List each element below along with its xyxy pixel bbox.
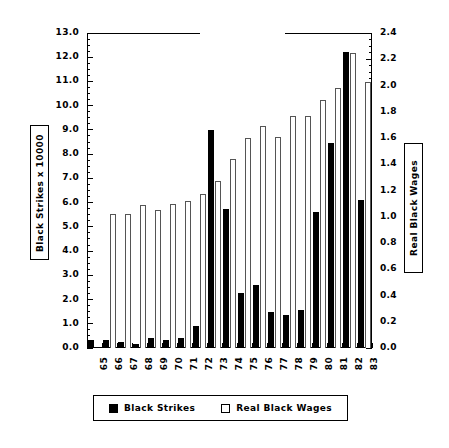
y-axis-left-minor-tick (87, 135, 90, 136)
bar-real-black-wages (320, 100, 326, 348)
bar-real-black-wages (260, 126, 266, 348)
bar-real-black-wages (125, 214, 131, 348)
y-axis-left-tick-label: 8.0 (62, 148, 79, 158)
y-axis-left-major-tick (87, 299, 93, 300)
x-axis-tick-label: 80 (324, 357, 334, 370)
top-border-left (87, 33, 200, 34)
bar-black-strikes (163, 340, 169, 348)
y-axis-left-tick-label: 4.0 (62, 245, 79, 255)
y-axis-left-major-tick (87, 323, 93, 324)
y-axis-right-minor-tick (369, 46, 372, 47)
legend-label-real-black-wages: Real Black Wages (236, 403, 332, 413)
bar-black-strikes (268, 312, 274, 348)
y-axis-left-minor-tick (87, 166, 90, 167)
y-axis-left-minor-tick (87, 269, 90, 270)
y-axis-left-minor-tick (87, 293, 90, 294)
y-axis-left-minor-tick (87, 287, 90, 288)
y-axis-left-minor-tick (87, 184, 90, 185)
y-axis-left-minor-tick (87, 329, 90, 330)
y-axis-left-minor-tick (87, 311, 90, 312)
y-axis-left-minor-tick (87, 160, 90, 161)
y-axis-left-tick-label: 2.0 (62, 294, 79, 304)
filled-square-icon (109, 404, 118, 413)
x-axis-tick-label: 81 (339, 357, 349, 370)
y-axis-left-minor-tick (87, 51, 90, 52)
y-axis-right-minor-tick (369, 52, 372, 53)
bar-black-strikes (298, 310, 304, 348)
x-axis-tick-label: 70 (174, 357, 184, 370)
y-axis-left-minor-tick (87, 214, 90, 215)
y-axis-left-major-tick (87, 251, 93, 252)
y-axis-left-minor-tick (87, 317, 90, 318)
chart-figure: Black Strikes x 10000 Real Black Wages 0… (0, 0, 449, 448)
x-axis-tick-label: 68 (144, 357, 154, 370)
y-axis-left-minor-tick (87, 75, 90, 76)
y-axis-right-minor-tick (369, 65, 372, 66)
x-axis-tick-label: 66 (114, 357, 124, 370)
y-axis-left-tick-label: 10.0 (56, 100, 79, 110)
open-square-icon (221, 404, 230, 413)
y-axis-left-tick-label: 11.0 (56, 75, 79, 85)
y-axis-right-minor-tick (369, 72, 372, 73)
y-axis-left-major-tick (87, 57, 93, 58)
bar-real-black-wages (335, 88, 341, 348)
y-axis-left-minor-tick (87, 123, 90, 124)
x-axis-tick-label: 79 (309, 357, 319, 370)
bar-black-strikes (253, 285, 259, 348)
y-axis-left-minor-tick (87, 305, 90, 306)
y-axis-left-minor-tick (87, 190, 90, 191)
y-axis-right-minor-tick (369, 39, 372, 40)
bar-black-strikes (238, 293, 244, 348)
y-axis-left-tick-label: 7.0 (62, 172, 79, 182)
y-axis-right-tick-label: 0.6 (380, 263, 397, 273)
y-axis-left-tick-label: 12.0 (56, 51, 79, 61)
y-axis-left-major-tick (87, 275, 93, 276)
plot-area: 0.01.02.03.04.05.06.07.08.09.010.011.012… (87, 33, 372, 348)
y-axis-right-tick-label: 0.2 (380, 316, 397, 326)
bar-real-black-wages (365, 82, 371, 348)
y-axis-left-major-tick (87, 202, 93, 203)
bar-black-strikes (283, 315, 289, 348)
y-axis-left-minor-tick (87, 39, 90, 40)
y-axis-left-minor-tick (87, 257, 90, 258)
bar-real-black-wages (140, 205, 146, 348)
bar-real-black-wages (215, 181, 221, 348)
y-axis-left-minor-tick (87, 232, 90, 233)
y-axis-right-tick-label: 1.4 (380, 158, 397, 168)
x-axis-tick-label: 78 (294, 357, 304, 370)
y-axis-left-minor-tick (87, 172, 90, 173)
bar-real-black-wages (275, 137, 281, 348)
bar-black-strikes (343, 52, 349, 348)
y-axis-left-minor-tick (87, 245, 90, 246)
y-axis-left-minor-tick (87, 63, 90, 64)
x-axis-tick-label: 65 (99, 357, 109, 370)
bar-black-strikes (103, 340, 109, 348)
y-axis-left-major-tick (87, 178, 93, 179)
x-axis-tick-label: 74 (234, 357, 244, 370)
y-axis-right-major-tick (366, 59, 372, 60)
legend-label-black-strikes: Black Strikes (124, 403, 195, 413)
bar-black-strikes (223, 209, 229, 348)
x-axis-tick-label: 71 (189, 357, 199, 370)
y-axis-left-minor-tick (87, 208, 90, 209)
y-axis-left-minor-tick (87, 142, 90, 143)
chart-legend: Black Strikes Real Black Wages (93, 395, 348, 421)
bar-real-black-wages (200, 194, 206, 348)
bar-real-black-wages (305, 116, 311, 348)
y-axis-left-minor-tick (87, 220, 90, 221)
legend-entry-real-black-wages: Real Black Wages (221, 403, 332, 413)
y-axis-left-minor-tick (87, 69, 90, 70)
y-axis-left-tick-label: 3.0 (62, 269, 79, 279)
bar-black-strikes (178, 338, 184, 348)
bar-black-strikes (313, 212, 319, 348)
y-axis-right-tick-label: 0.0 (380, 342, 397, 352)
bar-real-black-wages (170, 204, 176, 348)
y-axis-left-tick-label: 6.0 (62, 197, 79, 207)
y-axis-right-tick-label: 1.2 (380, 185, 397, 195)
bar-black-strikes (328, 143, 334, 348)
x-axis-tick (372, 343, 373, 348)
y-axis-left-major-tick (87, 154, 93, 155)
y-axis-left-major-tick (87, 129, 93, 130)
y-axis-left-tick-label: 1.0 (62, 318, 79, 328)
legend-entry-black-strikes: Black Strikes (109, 403, 195, 413)
